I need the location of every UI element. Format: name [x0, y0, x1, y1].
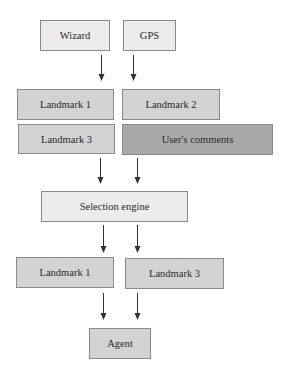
selection-engine-box: Selection engine: [41, 191, 188, 222]
users-comments-box: User's comments: [122, 124, 273, 155]
selection-engine-label: Selection engine: [80, 201, 150, 212]
landmark-3-box: Landmark 3: [18, 124, 115, 154]
arrow-down-icon: [133, 225, 142, 253]
selected-landmark-1-label: Landmark 1: [39, 267, 90, 278]
landmark-2-label: Landmark 2: [145, 99, 196, 110]
arrow-down-icon: [97, 55, 106, 81]
landmark-1-label: Landmark 1: [40, 99, 91, 110]
agent-label: Agent: [107, 338, 133, 349]
gps-label: GPS: [140, 30, 159, 41]
wizard-box: Wizard: [40, 20, 110, 51]
landmark-2-box: Landmark 2: [122, 89, 220, 120]
arrow-down-icon: [99, 225, 108, 253]
selected-landmark-3-label: Landmark 3: [149, 268, 200, 279]
users-comments-label: User's comments: [162, 134, 234, 145]
landmark-3-label: Landmark 3: [41, 134, 92, 145]
arrow-down-icon: [133, 158, 142, 184]
arrow-down-icon: [96, 158, 105, 184]
arrow-down-icon: [129, 55, 138, 81]
agent-box: Agent: [89, 328, 151, 359]
arrow-down-icon: [133, 293, 142, 320]
wizard-label: Wizard: [60, 30, 90, 41]
selected-landmark-1-box: Landmark 1: [16, 257, 114, 288]
gps-box: GPS: [123, 20, 176, 51]
landmark-1-box: Landmark 1: [17, 89, 114, 120]
selected-landmark-3-box: Landmark 3: [125, 258, 224, 289]
arrow-down-icon: [99, 293, 108, 320]
